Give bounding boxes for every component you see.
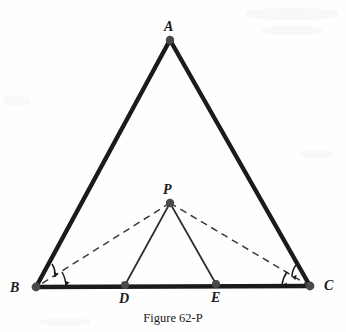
angle-mark-b-outer (62, 272, 70, 286)
side-AB (36, 40, 170, 287)
vertex-dot-C (306, 282, 315, 291)
angle-mark-c-inner (292, 265, 297, 280)
point-label-b: B (10, 281, 19, 295)
vertex-dot-A (166, 36, 174, 44)
point-label-e: E (211, 291, 220, 305)
vertex-dot-P (166, 199, 174, 207)
base-BC (36, 286, 310, 287)
vertex-dot-E (212, 280, 220, 288)
point-label-p: P (163, 183, 172, 197)
figure-container: A P B C D E Figure 62-P (0, 0, 346, 332)
angle-mark-b-inner (52, 264, 58, 277)
side-AC (170, 40, 310, 286)
geometry-drawing (0, 0, 346, 332)
segment-PE (170, 203, 216, 284)
point-label-c: C (324, 279, 333, 293)
figure-caption: Figure 62-P (0, 311, 346, 326)
vertex-dot-B (32, 283, 41, 292)
segment-PD (125, 203, 170, 285)
point-label-d: D (119, 292, 129, 306)
vertex-dot-D (121, 281, 129, 289)
point-label-a: A (164, 20, 173, 34)
